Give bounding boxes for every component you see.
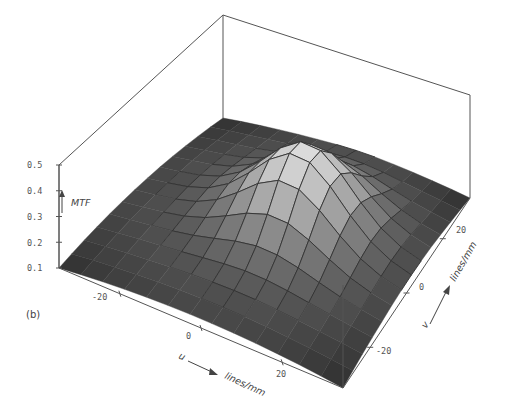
- mtf-surface: [59, 118, 470, 388]
- v-tick-label: -20: [376, 346, 391, 356]
- u-tick-label: -20: [92, 292, 107, 302]
- up-arrow-icon: [59, 190, 65, 213]
- z-tick-label: 0.1: [27, 263, 42, 273]
- panel-label: (b): [26, 309, 40, 320]
- right-arrow-icon: [188, 361, 218, 375]
- v-tick-label: 20: [456, 225, 466, 235]
- z-tick-label: 0.3: [27, 212, 42, 222]
- v-axis-label: v: [419, 319, 431, 330]
- v-axis-unit: lines/mm: [447, 240, 478, 283]
- z-axis-label: MTF: [71, 197, 91, 208]
- up-right-arrow-icon: [430, 285, 450, 324]
- u-axis-unit: lines/mm: [223, 370, 267, 398]
- z-tick-label: 0.2: [27, 238, 42, 248]
- box-edge: [223, 15, 470, 95]
- u-axis-label: u: [177, 350, 187, 363]
- z-tick-label: 0.4: [27, 186, 42, 196]
- z-tick-label: 0.5: [27, 160, 42, 170]
- u-tick-label: 20: [276, 369, 286, 379]
- mtf-surface-plot: 0.1 0.2 0.3 0.4 0.5 MTF -20 0 20 u lines…: [0, 0, 510, 417]
- v-tick-label: 0: [419, 282, 424, 292]
- u-tick-label: 0: [186, 331, 191, 341]
